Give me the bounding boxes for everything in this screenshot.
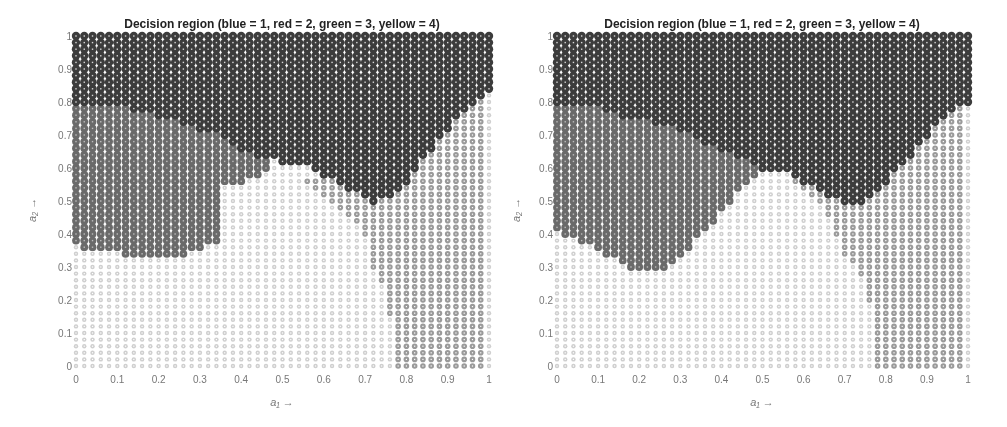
- y-tick-label: 0.7: [539, 130, 553, 141]
- y-tick-label: 1: [547, 31, 553, 42]
- x-tick-label: 0.5: [756, 374, 770, 385]
- x-tick-label: 0.2: [632, 374, 646, 385]
- y-tick-label: 0.9: [539, 64, 553, 75]
- x-tick-label: 0: [554, 374, 560, 385]
- x-axis-label: a₁ →: [750, 396, 774, 408]
- y-tick-label: 0.4: [539, 229, 553, 240]
- x-tick-label: 0.1: [591, 374, 605, 385]
- x-tick-label: 0.6: [797, 374, 811, 385]
- x-tick-label: 0.8: [879, 374, 893, 385]
- y-tick-label: 0.1: [539, 328, 553, 339]
- y-tick-label: 0.6: [539, 163, 553, 174]
- y-tick-label: 0.2: [539, 295, 553, 306]
- x-tick-label: 0.3: [673, 374, 687, 385]
- x-tick-label: 0.7: [838, 374, 852, 385]
- decision-region-plot-right: [0, 0, 1007, 427]
- chart-title: Decision region (blue = 1, red = 2, gree…: [604, 17, 919, 31]
- x-tick-label: 0.9: [920, 374, 934, 385]
- chart-right: Decision region (blue = 1, red = 2, gree…: [0, 0, 1007, 427]
- y-tick-label: 0.3: [539, 262, 553, 273]
- y-tick-label: 0: [547, 361, 553, 372]
- x-tick-label: 1: [965, 374, 971, 385]
- y-tick-label: 0.5: [539, 196, 553, 207]
- y-axis-label: a₂ →: [510, 198, 522, 222]
- y-tick-label: 0.8: [539, 97, 553, 108]
- x-tick-label: 0.4: [714, 374, 728, 385]
